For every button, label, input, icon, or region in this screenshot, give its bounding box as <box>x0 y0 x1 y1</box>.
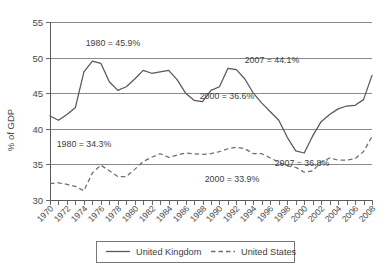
y-axis-title: % of GDP <box>5 109 16 151</box>
chart-container: 303540455055 197019721974197619781980198… <box>0 0 390 267</box>
annotation-us-2007: 2007 = 36.8% <box>275 158 330 168</box>
x-tick-label-1972: 1972 <box>52 203 73 224</box>
x-tick-label-1978: 1978 <box>103 203 124 224</box>
x-tick-label-2004: 2004 <box>323 203 344 224</box>
x-axis-tick-labels-group: 1970197219741976197819801982198419861988… <box>35 203 378 224</box>
y-tick-label-45: 45 <box>32 88 43 99</box>
legend-label-united-states: United States <box>241 247 297 257</box>
x-tick-label-1994: 1994 <box>238 203 259 224</box>
annotation-uk-2000: 2000 = 36.6% <box>200 91 255 101</box>
y-tick-label-50: 50 <box>32 53 43 64</box>
x-tick-label-1988: 1988 <box>188 203 209 224</box>
x-tick-label-1982: 1982 <box>137 203 158 224</box>
legend-label-united-kingdom: United Kingdom <box>136 247 202 257</box>
x-tick-label-1984: 1984 <box>154 203 175 224</box>
x-tick-label-1976: 1976 <box>86 203 107 224</box>
x-tick-label-2000: 2000 <box>289 203 310 224</box>
y-axis-ticks-group: 303540455055 <box>32 17 50 206</box>
y-tick-label-55: 55 <box>32 17 43 28</box>
x-tick-label-1970: 1970 <box>35 203 56 224</box>
x-tick-label-1986: 1986 <box>171 203 192 224</box>
x-tick-label-1980: 1980 <box>120 203 141 224</box>
annotations-group: 1980 = 45.9%2007 = 44.1%2000 = 36.6%1980… <box>57 38 330 184</box>
x-tick-label-1990: 1990 <box>204 203 225 224</box>
annotation-us-1980: 1980 = 34.3% <box>57 139 112 149</box>
y-tick-label-30: 30 <box>32 195 43 206</box>
line-chart: 303540455055 197019721974197619781980198… <box>0 0 390 267</box>
x-tick-label-1998: 1998 <box>272 203 293 224</box>
x-tick-label-2006: 2006 <box>340 203 361 224</box>
chart-legend: United Kingdom United States <box>96 241 297 262</box>
annotation-uk-2007: 2007 = 44.1% <box>245 55 300 65</box>
x-tick-label-1996: 1996 <box>255 203 276 224</box>
y-tick-label-35: 35 <box>32 159 43 170</box>
y-tick-label-40: 40 <box>32 124 43 135</box>
x-tick-label-1974: 1974 <box>69 203 90 224</box>
x-tick-label-2008: 2008 <box>357 203 378 224</box>
x-tick-label-2002: 2002 <box>306 203 327 224</box>
x-tick-label-1992: 1992 <box>221 203 242 224</box>
annotation-uk-1980: 1980 = 45.9% <box>86 38 141 48</box>
annotation-us-2000: 2000 = 33.9% <box>205 174 260 184</box>
